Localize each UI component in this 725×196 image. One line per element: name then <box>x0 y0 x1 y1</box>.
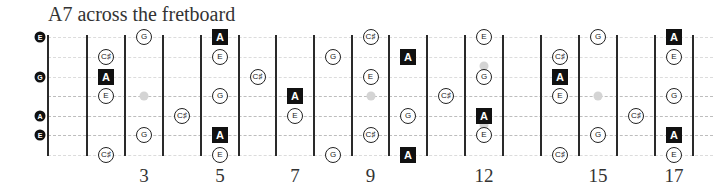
fret-line <box>313 35 315 156</box>
inlay-dot <box>140 92 149 101</box>
chord-tone-marker: E <box>212 147 228 163</box>
chord-tone-marker: E <box>98 88 114 104</box>
chord-tone-marker: E <box>666 147 682 163</box>
string-line <box>48 77 713 78</box>
string-label-a: A <box>35 111 46 122</box>
fret-line <box>692 35 694 156</box>
root-note-marker: A <box>212 29 228 45</box>
chord-tone-marker: C♯ <box>363 127 379 143</box>
fret-line <box>200 35 202 156</box>
fret-number: 12 <box>475 164 494 188</box>
fret-line <box>388 35 390 156</box>
chord-tone-marker: G <box>325 49 341 65</box>
chord-tone-marker: C♯ <box>250 69 266 85</box>
fret-number: 7 <box>290 164 300 188</box>
chord-tone-marker: G <box>400 108 416 124</box>
chord-tone-marker: C♯ <box>628 108 644 124</box>
string-label-g: G <box>35 72 46 83</box>
root-note-marker: A <box>476 108 492 124</box>
inlay-dot <box>594 92 603 101</box>
chord-tone-marker: E <box>476 127 492 143</box>
fret-line <box>654 35 656 156</box>
string-line <box>48 155 713 156</box>
root-note-marker: A <box>212 127 228 143</box>
chord-tone-marker: G <box>590 127 606 143</box>
chord-tone-marker: C♯ <box>98 147 114 163</box>
fret-line <box>86 35 88 156</box>
chord-tone-marker: G <box>212 88 228 104</box>
fret-number: 15 <box>589 164 608 188</box>
fret-line <box>351 35 353 156</box>
nut-line <box>47 35 49 156</box>
fret-number: 9 <box>366 164 376 188</box>
fret-line <box>464 35 466 156</box>
chord-tone-marker: E <box>212 49 228 65</box>
chord-tone-marker: E <box>552 88 568 104</box>
chord-tone-marker: E <box>666 49 682 65</box>
chord-tone-marker: C♯ <box>552 147 568 163</box>
fret-number: 5 <box>215 164 225 188</box>
inlay-dot <box>366 92 375 101</box>
chord-tone-marker: C♯ <box>98 49 114 65</box>
chord-tone-marker: C♯ <box>363 29 379 45</box>
chord-tone-marker: E <box>476 29 492 45</box>
fretboard: EGAEC♯AEC♯GGC♯AEGAEC♯AEGGC♯EC♯AGAC♯EGAEC… <box>0 0 725 196</box>
fret-line <box>275 35 277 156</box>
root-note-marker: A <box>666 29 682 45</box>
fret-line <box>238 35 240 156</box>
root-note-marker: A <box>666 127 682 143</box>
chord-tone-marker: C♯ <box>552 49 568 65</box>
chord-tone-marker: G <box>325 147 341 163</box>
root-note-marker: A <box>287 88 303 104</box>
chord-tone-marker: G <box>666 88 682 104</box>
fret-line <box>162 35 164 156</box>
chord-tone-marker: G <box>476 69 492 85</box>
chord-tone-marker: G <box>590 29 606 45</box>
fret-line <box>426 35 428 156</box>
fret-line <box>124 35 126 156</box>
chord-tone-marker: E <box>287 108 303 124</box>
string-line <box>48 57 713 58</box>
fret-line <box>502 35 504 156</box>
fret-line <box>540 35 542 156</box>
chord-tone-marker: E <box>363 69 379 85</box>
fret-number: 17 <box>665 164 684 188</box>
root-note-marker: A <box>400 49 416 65</box>
root-note-marker: A <box>400 147 416 163</box>
string-label-e: E <box>35 32 46 43</box>
fret-number: 3 <box>139 164 149 188</box>
fret-line <box>616 35 618 156</box>
root-note-marker: A <box>552 69 568 85</box>
chord-tone-marker: G <box>136 29 152 45</box>
string-label-e: E <box>35 130 46 141</box>
chord-tone-marker: G <box>136 127 152 143</box>
root-note-marker: A <box>98 69 114 85</box>
fret-line <box>578 35 580 156</box>
chord-tone-marker: C♯ <box>438 88 454 104</box>
chord-tone-marker: C♯ <box>174 108 190 124</box>
string-line <box>48 116 713 117</box>
